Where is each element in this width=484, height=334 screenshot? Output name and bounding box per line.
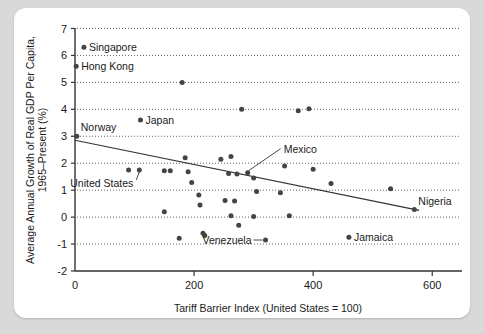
data-point <box>236 223 241 228</box>
y-tick-label-1: 1 <box>61 184 67 196</box>
data-point <box>183 155 188 160</box>
data-point <box>168 168 173 173</box>
data-point <box>329 181 334 186</box>
label-norway: Norway <box>81 121 117 133</box>
label-japan: Japan <box>145 114 174 126</box>
x-tick-label-200: 200 <box>185 279 203 291</box>
y-tick-label-4: 4 <box>61 103 67 115</box>
data-point <box>126 167 131 172</box>
data-point <box>282 163 287 168</box>
data-point-nigeria <box>412 207 417 212</box>
label-united-states-leader <box>136 172 139 180</box>
data-point <box>287 213 292 218</box>
x-tick-label-0: 0 <box>72 279 78 291</box>
trend-line <box>75 140 419 210</box>
data-point <box>177 236 182 241</box>
scatter-plot: -2-1012345670200400600 SingaporeHong Kon… <box>0 0 484 334</box>
data-point <box>278 190 283 195</box>
data-point-hong-kong <box>74 64 79 69</box>
y-tick-label-6: 6 <box>61 49 67 61</box>
data-point <box>189 180 194 185</box>
label-nigeria: Nigeria <box>418 195 451 207</box>
data-point <box>251 214 256 219</box>
label-jamaica: Jamaica <box>354 231 393 243</box>
data-point-mexico <box>245 170 250 175</box>
data-point-venezuela <box>263 238 268 243</box>
label-venezuela: Venezuela <box>202 234 251 246</box>
data-point <box>228 154 233 159</box>
label-mexico-leader <box>249 149 281 171</box>
data-point <box>228 213 233 218</box>
data-point <box>226 171 231 176</box>
data-point-japan <box>138 118 143 123</box>
data-point <box>254 189 259 194</box>
data-points <box>74 45 417 243</box>
data-point <box>306 106 311 111</box>
label-leader-lines <box>136 149 280 240</box>
data-point-jamaica <box>346 235 351 240</box>
data-point <box>239 107 244 112</box>
gridlines <box>77 29 460 245</box>
data-point <box>218 157 223 162</box>
y-tick-label--1: -1 <box>57 238 67 250</box>
label-mexico: Mexico <box>284 143 317 155</box>
data-point-singapore <box>81 45 86 50</box>
data-point <box>388 186 393 191</box>
data-point-united-states <box>137 167 142 172</box>
x-tick-label-600: 600 <box>423 279 441 291</box>
regression-line <box>75 140 419 210</box>
y-tick-label-3: 3 <box>61 130 67 142</box>
x-tick-label-400: 400 <box>304 279 322 291</box>
label-united-states: United States <box>70 177 133 189</box>
data-point <box>232 198 237 203</box>
y-tick-label--2: -2 <box>57 265 67 277</box>
data-point <box>296 108 301 113</box>
x-axis-title: Tariff Barrier Index (United States = 10… <box>174 302 362 314</box>
data-point <box>186 169 191 174</box>
y-axis-title-line1: Average Annual Growth of Real GDP Per Ca… <box>24 36 36 264</box>
y-tick-label-7: 7 <box>61 23 67 35</box>
point-labels: SingaporeHong KongJapanNorwayUnited Stat… <box>70 41 452 246</box>
y-axis-title-line2: 1965–Present (%) <box>36 108 48 193</box>
label-hong-kong: Hong Kong <box>81 60 134 72</box>
data-point <box>196 193 201 198</box>
data-point <box>180 80 185 85</box>
data-point <box>162 209 167 214</box>
y-tick-label-0: 0 <box>61 211 67 223</box>
y-tick-label-2: 2 <box>61 157 67 169</box>
data-point <box>198 202 203 207</box>
data-point <box>251 176 256 181</box>
data-point <box>234 172 239 177</box>
plot-svg: -2-1012345670200400600 SingaporeHong Kon… <box>0 0 484 334</box>
label-singapore: Singapore <box>89 41 137 53</box>
data-point-norway <box>74 134 79 139</box>
data-point <box>162 168 167 173</box>
data-point <box>223 198 228 203</box>
data-point <box>311 167 316 172</box>
y-tick-label-5: 5 <box>61 76 67 88</box>
